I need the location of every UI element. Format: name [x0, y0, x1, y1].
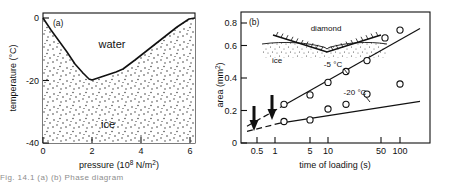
panel-b-y-axis-title: area (mm2): [215, 62, 225, 107]
data-point: [364, 58, 370, 64]
panel-a-xtick-4: 4: [138, 146, 143, 156]
panel-a-svg: 0 -20 -40 0 2 4 6 (a) water ice pressure…: [0, 0, 215, 183]
panel-b-xtick-50: 50: [376, 146, 386, 156]
panel-b-ytick-0p8: 0.8: [224, 18, 237, 28]
panel-b-xtick-10: 10: [323, 146, 333, 156]
panel-a-xtick-0: 0: [40, 146, 45, 156]
panel-b-xtick-100: 100: [392, 146, 407, 156]
panel-a-ytick-m40: -40: [26, 138, 39, 148]
inset-diamond-label: diamond: [311, 24, 342, 33]
panel-b-indentation-plot: (b): [215, 0, 450, 183]
inset-ice-label: ice: [272, 56, 283, 65]
data-point: [307, 92, 313, 98]
panel-a-label: (a): [53, 18, 64, 28]
panel-b-x-axis-title: time of loading (s): [299, 160, 371, 170]
panel-b-series-label-cold: -20 °C: [344, 88, 367, 97]
panel-b-xtick-5: 5: [307, 146, 312, 156]
data-point: [325, 79, 331, 85]
data-point: [343, 101, 349, 107]
panel-a-ytick-m20: -20: [26, 76, 39, 86]
panel-b-xtick-1: 1: [272, 146, 277, 156]
data-point: [382, 35, 388, 41]
data-point: [397, 81, 403, 87]
data-point: [307, 117, 313, 123]
panel-b-label: (b): [249, 17, 260, 27]
panel-a-y-axis-title: temperature (°C): [8, 44, 18, 111]
panel-b-series-label-warm: -5 °C: [324, 60, 343, 69]
data-point: [281, 118, 287, 124]
panel-b-ytick-0p4: 0.4: [224, 73, 237, 83]
panel-a-ytick-0: 0: [34, 13, 39, 23]
panel-a-phase-diagram: 0 -20 -40 0 2 4 6 (a) water ice pressure…: [0, 0, 215, 183]
data-point: [281, 101, 287, 107]
figure-container: 0 -20 -40 0 2 4 6 (a) water ice pressure…: [0, 0, 450, 183]
panel-a-xtick-6: 6: [187, 146, 192, 156]
data-point: [397, 27, 403, 33]
panel-a-region-water: water: [98, 38, 126, 50]
figure-caption-fragment: Fig. 14.1 (a) (b) Phase diagram: [0, 173, 450, 183]
data-point: [325, 106, 331, 112]
panel-a-x-axis-title: pressure (108 N/m2): [79, 159, 159, 171]
panel-b-xtick-0p5: 0.5: [251, 146, 264, 156]
panel-a-region-ice: ice: [101, 118, 115, 130]
panel-a-xtick-2: 2: [89, 146, 94, 156]
panel-b-ytick-0: 0: [232, 138, 237, 148]
panel-b-svg: (b): [215, 0, 450, 183]
panel-b-ytick-0p6: 0.6: [224, 41, 237, 51]
panel-b-ytick-0p2: 0.2: [224, 106, 237, 116]
